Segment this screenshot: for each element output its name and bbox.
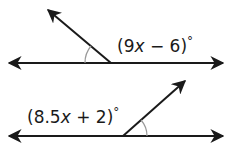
ray-2 — [123, 81, 185, 136]
ray-1 — [48, 10, 111, 63]
angle-arc-2 — [141, 120, 147, 136]
angle-label-2: (8.5x + 2)° — [27, 105, 119, 127]
angle-label-1: (9x − 6)° — [117, 34, 193, 56]
figure-1: (9x − 6)° — [9, 10, 223, 63]
figure-2: (8.5x + 2)° — [9, 81, 223, 136]
diagram-canvas: (9x − 6)° (8.5x + 2)° — [0, 0, 239, 143]
angle-arc-1 — [85, 46, 91, 63]
